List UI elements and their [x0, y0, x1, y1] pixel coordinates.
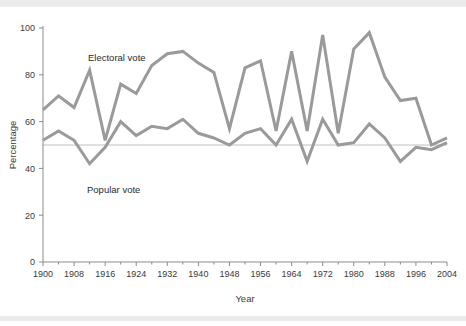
- x-axis-tick-label: 1908: [64, 269, 84, 279]
- series-annotation-electoral-vote: Electoral vote: [88, 52, 146, 63]
- x-axis-tick-label: 1900: [33, 269, 53, 279]
- x-axis-tick-label: 1948: [219, 269, 239, 279]
- x-axis-tick-label: 1972: [313, 269, 333, 279]
- page-top-band: [0, 0, 466, 7]
- y-axis-tick-label: 40: [25, 164, 35, 174]
- x-axis-tick-label: 1980: [344, 269, 364, 279]
- y-axis-tick-group: [39, 28, 43, 262]
- y-axis-tick-label: 20: [25, 211, 35, 221]
- y-axis-tick-label: 100: [20, 23, 35, 33]
- x-axis-tick-label: 1916: [95, 269, 115, 279]
- y-axis-tick-label: 60: [25, 117, 35, 127]
- x-axis-tick-label: 1924: [126, 269, 146, 279]
- x-axis-labels: 1900190819161924193219401948195619641972…: [33, 269, 457, 279]
- y-axis-tick-label: 80: [25, 70, 35, 80]
- y-axis-tick-label: 0: [30, 257, 35, 267]
- x-axis-tick-label: 2004: [437, 269, 457, 279]
- x-axis-tick-label: 1996: [406, 269, 426, 279]
- series-line-electoral-vote: [43, 33, 447, 145]
- x-axis-tick-label: 1932: [157, 269, 177, 279]
- series-annotation-popular-vote: Popular vote: [87, 184, 140, 195]
- x-axis-tick-label: 1964: [282, 269, 302, 279]
- line-chart: 020406080100 190019081916192419321940194…: [0, 8, 466, 308]
- y-axis-title: Percentage: [7, 121, 18, 170]
- series-annotation-group: Electoral votePopular vote: [87, 52, 146, 195]
- x-axis-tick-label: 1956: [251, 269, 271, 279]
- series-line-popular-vote: [43, 119, 447, 163]
- x-axis-tick-label: 1940: [188, 269, 208, 279]
- x-axis-tick-label: 1988: [375, 269, 395, 279]
- chart-container: 020406080100 190019081916192419321940194…: [0, 8, 466, 308]
- page-bottom-band: [0, 316, 466, 321]
- x-axis-title: Year: [235, 293, 254, 304]
- chart-page: 020406080100 190019081916192419321940194…: [0, 0, 466, 326]
- x-axis-tick-group: [43, 262, 447, 266]
- y-axis-labels: 020406080100: [20, 23, 35, 267]
